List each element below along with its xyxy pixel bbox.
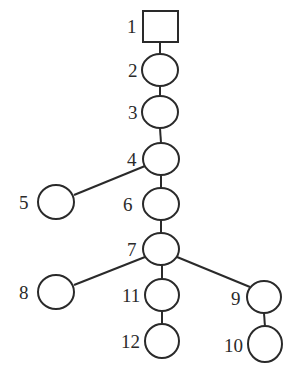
node-12-circle [145, 324, 179, 358]
node-2-circle [142, 54, 178, 86]
label-node-3: 3 [128, 102, 138, 123]
node-10-circle [248, 326, 282, 362]
node-7-circle [143, 233, 179, 265]
label-node-7: 7 [127, 239, 137, 260]
edge-7-8 [74, 257, 145, 285]
edge-7-9 [177, 257, 250, 287]
tree-diagram: 1 2 3 4 5 6 7 8 11 9 12 10 [0, 0, 295, 387]
node-5-circle [38, 185, 74, 219]
node-6-circle [143, 188, 179, 220]
label-node-6: 6 [123, 194, 133, 215]
node-3-circle [142, 96, 178, 128]
node-9-circle [247, 281, 281, 313]
label-node-11: 11 [122, 285, 140, 306]
label-node-1: 1 [127, 16, 137, 37]
node-8-circle [38, 275, 74, 309]
label-node-9: 9 [231, 288, 241, 309]
label-node-2: 2 [128, 60, 138, 81]
node-11-circle [145, 279, 179, 311]
label-node-5: 5 [19, 192, 29, 213]
edge-4-5 [74, 166, 145, 195]
label-node-4: 4 [127, 149, 137, 170]
node-1-square [143, 11, 178, 42]
label-node-8: 8 [19, 282, 29, 303]
edge-3-4 [160, 128, 161, 143]
edge-9-10 [264, 313, 265, 327]
label-node-12: 12 [121, 331, 140, 352]
node-4-circle [143, 143, 179, 175]
label-node-10: 10 [224, 335, 243, 356]
